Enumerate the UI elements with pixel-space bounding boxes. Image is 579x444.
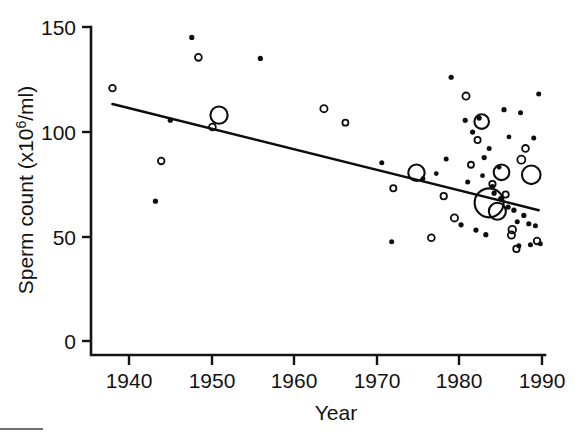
data-point (463, 118, 468, 123)
data-point (444, 156, 449, 161)
data-point (320, 105, 327, 112)
open-circle-series (109, 54, 540, 252)
data-point (389, 239, 394, 244)
data-point (497, 165, 502, 170)
data-point (342, 120, 348, 126)
data-point (533, 223, 538, 228)
data-point (526, 221, 531, 226)
data-point (536, 91, 541, 96)
data-point (189, 35, 194, 40)
y-tick-label-100: 100 (41, 121, 76, 144)
data-point (379, 160, 384, 165)
data-point (522, 165, 541, 184)
x-axis-title: Year (315, 401, 357, 424)
data-point (506, 204, 511, 209)
data-point (489, 203, 506, 220)
y-axis-title-main: Sperm count (x10 (14, 129, 37, 295)
data-point (528, 242, 533, 247)
data-point (490, 184, 495, 189)
y-axis-ticks (82, 27, 91, 341)
data-point (491, 191, 496, 196)
x-tick-label-1990: 1990 (519, 369, 566, 392)
x-tick-label-1980: 1980 (436, 369, 483, 392)
y-axis-title-superscript: 6 (13, 121, 29, 129)
y-axis-title-tail: /ml) (14, 86, 37, 121)
data-point (494, 164, 510, 180)
y-tick-label-150: 150 (41, 16, 76, 39)
data-point (462, 92, 469, 99)
data-point (518, 110, 523, 115)
axis-lines (91, 27, 545, 355)
data-point (501, 107, 506, 112)
data-point (522, 145, 529, 152)
data-point (109, 85, 116, 92)
data-point (458, 222, 463, 227)
data-point (511, 208, 516, 213)
data-point (482, 155, 487, 160)
data-point (434, 171, 439, 176)
data-point (474, 114, 489, 129)
data-point (390, 185, 396, 191)
data-point (195, 54, 202, 61)
y-tick-label-50: 50 (53, 226, 76, 249)
data-point (441, 193, 447, 199)
data-point (465, 179, 470, 184)
data-point (451, 214, 458, 221)
data-point (258, 56, 263, 61)
data-point (158, 158, 165, 165)
scatter-plot: 150 100 50 0 1940 1950 1960 1970 1980 19… (0, 0, 579, 444)
data-points-layer (109, 35, 543, 252)
x-tick-label-1940: 1940 (106, 369, 153, 392)
data-point (507, 135, 512, 140)
data-point (428, 234, 435, 241)
x-tick-labels: 1940 1950 1960 1970 1980 1990 (106, 369, 566, 392)
x-tick-label-1960: 1960 (271, 369, 318, 392)
x-tick-label-1970: 1970 (354, 369, 401, 392)
data-point (480, 173, 485, 178)
y-tick-labels: 150 100 50 0 (41, 16, 76, 353)
data-point (210, 107, 227, 124)
data-point (477, 115, 482, 120)
data-point (468, 162, 474, 168)
data-point (473, 227, 478, 232)
data-point (517, 156, 525, 164)
data-point (470, 129, 475, 134)
caption-rule (0, 428, 43, 430)
y-tick-label-0: 0 (64, 330, 76, 353)
y-axis-title: Sperm count (x106/ml) (13, 86, 37, 295)
x-tick-label-1950: 1950 (189, 369, 236, 392)
data-point (487, 146, 492, 151)
data-point (521, 213, 526, 218)
data-point (449, 75, 454, 80)
data-point (516, 243, 521, 248)
data-point (483, 232, 488, 237)
x-axis-ticks (129, 355, 542, 365)
data-point (503, 191, 509, 197)
data-point (153, 199, 158, 204)
data-point (474, 137, 480, 143)
data-point (531, 135, 536, 140)
figure-panel: 150 100 50 0 1940 1950 1960 1970 1980 19… (0, 0, 579, 444)
data-point (538, 241, 543, 246)
data-point (515, 219, 520, 224)
